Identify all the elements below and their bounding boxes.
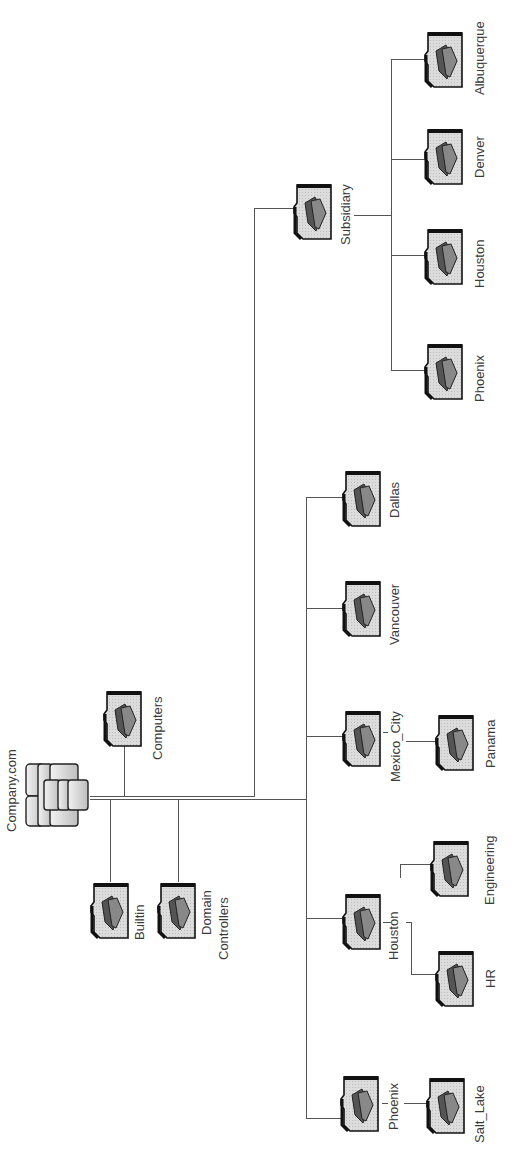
label-builtin: Builtin (132, 905, 147, 940)
connector-line (124, 746, 125, 797)
folder-sub-denver[interactable] (424, 128, 464, 186)
connector-line (110, 799, 111, 882)
connector-line (254, 208, 255, 797)
connector-line (178, 799, 179, 882)
label-hr: HR (483, 969, 498, 988)
connector-line (306, 736, 344, 737)
label-engineering: Engineering (482, 836, 497, 905)
label-phoenix: Phoenix (386, 1083, 401, 1130)
domain-server-icon[interactable] (24, 762, 92, 830)
label-computers: Computers (150, 696, 165, 760)
label-sub-phoenix: Phoenix (472, 355, 487, 402)
connector-line (90, 796, 255, 797)
label-sub-houston: Houston (472, 240, 487, 288)
folder-engineering[interactable] (430, 840, 470, 898)
label-domain-controllers-2: Controllers (216, 897, 231, 960)
folder-panama[interactable] (435, 714, 475, 772)
connector-line (391, 255, 425, 256)
connector-line (382, 1103, 388, 1104)
connector-line (306, 918, 344, 919)
folder-sub-albuquerque[interactable] (424, 31, 464, 89)
connector-line (404, 1103, 428, 1104)
connector-line (383, 922, 391, 923)
label-vancouver: Vancouver (387, 584, 402, 645)
folder-domain-controllers[interactable] (157, 882, 197, 940)
connector-line (411, 974, 437, 975)
connector-line (306, 608, 344, 609)
connector-line (354, 215, 392, 216)
connector-line (391, 159, 425, 160)
folder-houston[interactable] (342, 893, 382, 951)
label-panama: Panama (483, 720, 498, 768)
folder-mexico-city[interactable] (342, 710, 382, 768)
folder-vancouver[interactable] (342, 580, 382, 638)
label-subsidiary: Subsidiary (338, 184, 353, 245)
root-label: Company.com (4, 749, 19, 832)
label-salt-lake: Salt_Lake (472, 1085, 487, 1143)
connector-line (391, 370, 425, 371)
folder-salt-lake[interactable] (426, 1077, 466, 1135)
label-dallas: Dallas (387, 482, 402, 518)
folder-sub-phoenix[interactable] (424, 343, 464, 401)
label-houston: Houston (386, 912, 401, 960)
connector-line (383, 732, 388, 733)
connector-line (306, 497, 344, 498)
connector-line (411, 922, 412, 974)
folder-subsidiary[interactable] (293, 183, 333, 241)
connector-line (391, 59, 392, 370)
connector-line (254, 208, 294, 209)
folder-dallas[interactable] (342, 470, 382, 528)
connector-line (406, 741, 436, 742)
folder-hr[interactable] (435, 950, 475, 1008)
label-mexico-city: Mexico_City (388, 711, 403, 782)
connector-line (306, 1118, 342, 1119)
connector-line (400, 864, 401, 878)
label-sub-albuquerque: Albuquerque (472, 21, 487, 95)
folder-computers[interactable] (103, 690, 143, 748)
connector-line (400, 864, 432, 865)
folder-builtin[interactable] (90, 882, 130, 940)
connector-line (391, 59, 425, 60)
connector-line (306, 497, 307, 1119)
connector-line (90, 799, 307, 800)
folder-phoenix[interactable] (340, 1075, 380, 1133)
label-sub-denver: Denver (472, 136, 487, 178)
label-domain-controllers-1: Domain (199, 890, 214, 935)
folder-sub-houston[interactable] (424, 228, 464, 286)
